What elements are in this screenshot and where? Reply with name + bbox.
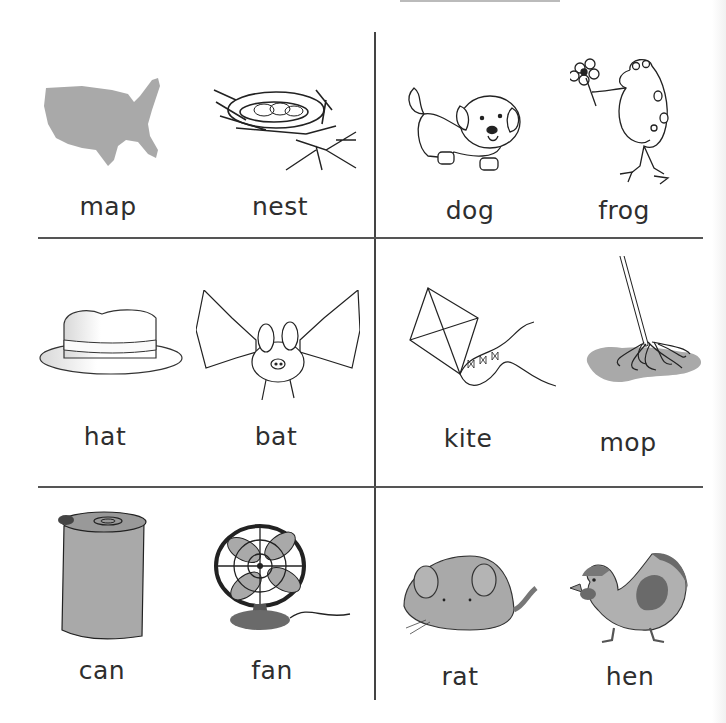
word-label: hen	[580, 662, 680, 691]
word-label: bat	[226, 422, 326, 451]
rat-icon	[400, 550, 542, 636]
hat-icon	[38, 308, 184, 378]
mop-icon	[582, 256, 708, 388]
word-label: can	[52, 656, 152, 685]
center-divider	[374, 32, 376, 700]
word-label: fan	[222, 656, 322, 685]
word-label: mop	[578, 428, 678, 457]
word-label: dog	[420, 196, 520, 225]
kite-icon	[404, 286, 556, 396]
bat-icon	[196, 290, 360, 404]
nest-icon	[206, 80, 362, 175]
hen-icon	[568, 550, 688, 646]
page-edge-shadow	[712, 0, 726, 723]
word-label: hat	[55, 422, 155, 451]
row-divider-1	[38, 237, 703, 239]
word-label: rat	[410, 662, 510, 691]
us-map-icon	[42, 76, 162, 168]
word-label: map	[58, 192, 158, 221]
word-label: nest	[230, 192, 330, 221]
word-label: kite	[418, 424, 518, 453]
row-divider-2	[38, 486, 703, 488]
word-label: frog	[574, 196, 674, 225]
fan-icon	[210, 524, 356, 630]
frog-icon	[570, 56, 676, 186]
can-icon	[56, 510, 150, 644]
top-edge-bar	[400, 0, 560, 2]
dog-icon	[404, 78, 544, 174]
